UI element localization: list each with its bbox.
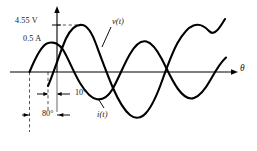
it-leader-line [99, 100, 104, 108]
dim10-arrow-right [57, 92, 62, 96]
voltage-curve-label: v(t) [112, 17, 124, 26]
x-axis-theta-label: θ [240, 64, 245, 73]
current-waveform-it [30, 41, 227, 99]
vt-leader-line [102, 27, 111, 47]
x-axis-arrowhead [231, 69, 238, 74]
angle-80-degree-label: 80° [42, 110, 53, 118]
angle-10-degree-label: 10° [75, 89, 86, 97]
voltage-amplitude-label: 4.55 V [15, 17, 38, 25]
y-axis-arrowhead [54, 6, 59, 13]
plot-canvas [0, 0, 257, 151]
current-curve-label: i(t) [97, 110, 108, 119]
current-amplitude-label: 0.5 A [23, 35, 41, 43]
dimension-10-deg [37, 92, 70, 96]
waveform-figure: 4.55 V 0.5 A v(t) i(t) 10° 80° θ [0, 0, 257, 151]
dim80-arrow-right [59, 113, 64, 117]
dim80-arrow-left [24, 113, 29, 117]
dim10-arrow-left [43, 92, 48, 96]
voltage-waveform-vt [48, 19, 225, 118]
